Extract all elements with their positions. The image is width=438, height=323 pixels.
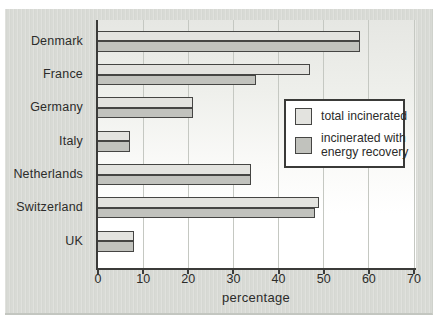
- legend-label-incinerated-with-energy-recovery: incinerated withenergy recovery: [321, 132, 408, 160]
- bar-incinerated-with-energy-recovery-italy: [98, 141, 130, 152]
- category-label-uk: UK: [5, 231, 91, 252]
- bar-total-incinerated-germany: [98, 97, 193, 108]
- bar-total-incinerated-uk: [98, 231, 134, 242]
- tick-label-30: 30: [213, 272, 253, 286]
- y-axis-category-labels: DenmarkFranceGermanyItalyNetherlandsSwit…: [5, 20, 91, 268]
- tick-label-50: 50: [304, 272, 344, 286]
- tick-label-70: 70: [394, 272, 434, 286]
- category-label-germany: Germany: [5, 97, 91, 118]
- bar-total-incinerated-netherlands: [98, 164, 251, 175]
- bar-incinerated-with-energy-recovery-uk: [98, 241, 134, 252]
- bar-incinerated-with-energy-recovery-germany: [98, 108, 193, 119]
- chart-panel: DenmarkFranceGermanyItalyNetherlandsSwit…: [5, 9, 433, 315]
- bar-incinerated-with-energy-recovery-switzerland: [98, 208, 315, 219]
- legend: total incineratedincinerated withenergy …: [284, 99, 405, 168]
- legend-label-total-incinerated: total incinerated: [321, 110, 407, 124]
- category-label-netherlands: Netherlands: [5, 164, 91, 185]
- tick-label-10: 10: [123, 272, 163, 286]
- gridline-20: [188, 20, 189, 268]
- gridline-30: [233, 20, 234, 268]
- bar-incinerated-with-energy-recovery-france: [98, 75, 256, 86]
- x-axis-label: percentage: [98, 290, 414, 305]
- tick-label-20: 20: [168, 272, 208, 286]
- legend-item-incinerated-with-energy-recovery: incinerated withenergy recovery: [295, 132, 395, 160]
- category-label-italy: Italy: [5, 131, 91, 152]
- tick-label-40: 40: [259, 272, 299, 286]
- gridline-10: [143, 20, 144, 268]
- bar-incinerated-with-energy-recovery-denmark: [98, 41, 360, 52]
- category-label-france: France: [5, 64, 91, 85]
- legend-swatch-incinerated-with-energy-recovery: [295, 137, 312, 154]
- bar-total-incinerated-denmark: [98, 31, 360, 42]
- legend-item-total-incinerated: total incinerated: [295, 108, 395, 125]
- legend-swatch-total-incinerated: [295, 108, 312, 125]
- bar-total-incinerated-switzerland: [98, 197, 319, 208]
- category-label-switzerland: Switzerland: [5, 197, 91, 218]
- tick-label-60: 60: [349, 272, 389, 286]
- bar-incinerated-with-energy-recovery-netherlands: [98, 175, 251, 186]
- tick-label-0: 0: [78, 272, 118, 286]
- category-label-denmark: Denmark: [5, 31, 91, 52]
- gridline-70: [414, 20, 415, 268]
- gridline-40: [278, 20, 279, 268]
- bar-total-incinerated-france: [98, 64, 310, 75]
- bar-total-incinerated-italy: [98, 131, 130, 142]
